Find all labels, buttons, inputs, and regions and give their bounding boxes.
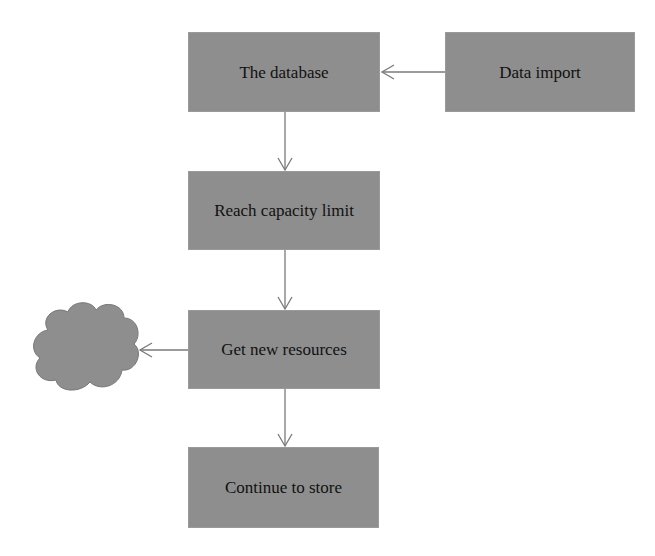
node-reach-capacity: Reach capacity limit: [188, 171, 380, 250]
node-data-import: Data import: [445, 32, 635, 112]
cloud-shape: [34, 303, 139, 390]
node-get-resources: Get new resources: [188, 310, 380, 389]
node-database: The database: [188, 32, 380, 112]
node-continue-store: Continue to store: [188, 447, 379, 528]
